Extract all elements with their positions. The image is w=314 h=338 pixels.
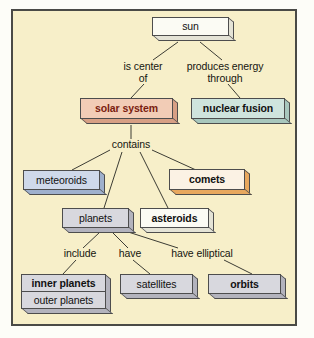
node-nuclear-fusion-face: nuclear fusion — [191, 98, 285, 119]
edge-label-produces-energy-through: produces energy through — [176, 61, 274, 84]
node-satellites-label: satellites — [137, 279, 177, 290]
node-inner-planets-label: inner planets — [31, 278, 95, 289]
node-comets-label: comets — [189, 174, 225, 185]
node-inner-outer-planets[interactable]: inner planets outer planets — [21, 274, 111, 314]
node-meteoroids-face: meteoroids — [23, 170, 100, 190]
edge-label-include: include — [52, 248, 108, 260]
node-meteoroids[interactable]: meteoroids — [23, 170, 105, 195]
node-orbits[interactable]: orbits — [208, 274, 286, 299]
node-planets-face: planets — [62, 208, 129, 228]
node-solar-system[interactable]: solar system — [80, 98, 178, 124]
node-asteroids-label: asteroids — [152, 213, 198, 224]
node-meteoroids-label: meteoroids — [36, 175, 87, 186]
node-nuclear-fusion[interactable]: nuclear fusion — [191, 98, 290, 124]
edge-label-contains: contains — [104, 139, 158, 151]
node-orbits-face: orbits — [208, 274, 281, 294]
node-inner-outer-planets-face: inner planets outer planets — [21, 274, 106, 309]
node-outer-planets-label: outer planets — [34, 295, 93, 306]
node-outer-planets-row[interactable]: outer planets — [22, 291, 105, 308]
node-comets-face: comets — [169, 169, 245, 190]
node-planets[interactable]: planets — [62, 208, 134, 233]
node-planets-label: planets — [79, 213, 112, 224]
node-sun[interactable]: sun — [152, 17, 234, 41]
node-sun-label: sun — [182, 21, 199, 32]
node-satellites-face: satellites — [120, 274, 193, 294]
node-sun-face: sun — [152, 17, 229, 36]
node-asteroids-face: asteroids — [140, 208, 209, 228]
node-asteroids[interactable]: asteroids — [140, 208, 214, 233]
node-comets[interactable]: comets — [169, 169, 250, 195]
node-satellites[interactable]: satellites — [120, 274, 198, 299]
node-nuclear-fusion-label: nuclear fusion — [203, 103, 273, 114]
node-solar-system-face: solar system — [80, 98, 173, 119]
diagram-canvas: sun solar system nuclear fusion meteoroi… — [0, 0, 314, 338]
edge-label-have-elliptical: have elliptical — [156, 248, 248, 260]
node-solar-system-label: solar system — [95, 103, 158, 114]
edge-label-have: have — [110, 248, 150, 260]
edge-label-is-center-of: is center of — [108, 61, 178, 84]
node-orbits-label: orbits — [230, 279, 259, 290]
node-inner-planets-row[interactable]: inner planets — [22, 275, 105, 291]
